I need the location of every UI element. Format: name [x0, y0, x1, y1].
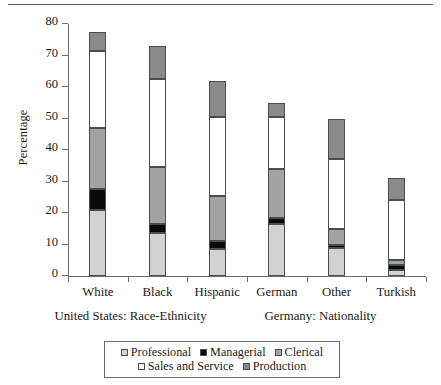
bar-segment-other-professional[interactable] — [328, 248, 345, 276]
bar-segment-black-production[interactable] — [149, 46, 166, 79]
bar-segment-german-managerial[interactable] — [268, 218, 285, 224]
bar-segment-other-production[interactable] — [328, 119, 345, 160]
bar-segment-black-professional[interactable] — [149, 233, 166, 276]
legend-item-sales-and-service[interactable]: Sales and Service — [138, 359, 234, 373]
bar-segment-german-professional[interactable] — [268, 224, 285, 276]
y-axis-tick: 50 — [62, 118, 68, 119]
x-axis-tick — [68, 277, 69, 282]
chart-legend: ProfessionalManagerialClerical Sales and… — [104, 341, 340, 378]
legend-label: Production — [253, 359, 307, 373]
bar-segment-turkish-sales-and-service[interactable] — [388, 200, 405, 260]
bar-segment-german-sales-and-service[interactable] — [268, 117, 285, 169]
legend-row-top: ProfessionalManagerialClerical — [110, 345, 334, 359]
group-label-germany: Germany: Nationality — [228, 309, 413, 324]
bar-segment-turkish-clerical[interactable] — [388, 260, 405, 265]
y-axis-tick: 80 — [62, 23, 68, 24]
y-axis-tick-label: 60 — [46, 77, 59, 92]
bar-segment-hispanic-managerial[interactable] — [209, 241, 226, 249]
chart-figure: Percentage 01020304050607080 WhiteBlackH… — [0, 0, 441, 385]
y-axis-tick-label: 40 — [46, 140, 59, 155]
bar-segment-turkish-production[interactable] — [388, 178, 405, 200]
bar-segment-white-clerical[interactable] — [89, 128, 106, 189]
legend-label: Managerial — [210, 345, 266, 359]
bar-segment-white-production[interactable] — [89, 32, 106, 51]
bar-segment-white-sales-and-service[interactable] — [89, 51, 106, 128]
y-axis-title: Percentage — [16, 78, 31, 198]
y-axis-tick-label: 10 — [46, 235, 59, 250]
y-axis-tick: 40 — [62, 149, 68, 150]
x-axis-tick — [187, 277, 188, 282]
plot-area: 01020304050607080 — [68, 24, 426, 276]
y-axis-line — [68, 24, 69, 276]
bar-segment-german-clerical[interactable] — [268, 169, 285, 218]
bar-segment-hispanic-sales-and-service[interactable] — [209, 117, 226, 196]
legend-swatch-production-icon — [243, 363, 250, 370]
bar-other[interactable] — [328, 119, 345, 277]
bar-segment-other-managerial[interactable] — [328, 245, 345, 248]
legend-item-professional[interactable]: Professional — [121, 345, 191, 359]
bar-white[interactable] — [89, 32, 106, 276]
bar-segment-white-managerial[interactable] — [89, 189, 106, 209]
bar-segment-other-clerical[interactable] — [328, 229, 345, 245]
y-axis-tick: 10 — [62, 244, 68, 245]
y-axis-tick: 20 — [62, 212, 68, 213]
bar-german[interactable] — [268, 103, 285, 276]
y-axis-tick-label: 70 — [46, 46, 59, 61]
y-axis-tick-label: 30 — [46, 172, 59, 187]
legend-row-bottom: Sales and ServiceProduction — [110, 359, 334, 373]
bar-black[interactable] — [149, 46, 166, 276]
bar-segment-hispanic-professional[interactable] — [209, 249, 226, 276]
bar-segment-white-professional[interactable] — [89, 210, 106, 276]
x-axis-tick — [426, 277, 427, 282]
y-axis-tick: 30 — [62, 181, 68, 182]
legend-swatch-managerial-icon — [200, 349, 207, 356]
bar-segment-other-sales-and-service[interactable] — [328, 159, 345, 228]
bar-segment-turkish-professional[interactable] — [388, 270, 405, 276]
bar-segment-black-managerial[interactable] — [149, 224, 166, 233]
bar-segment-black-sales-and-service[interactable] — [149, 79, 166, 167]
y-axis-tick-label: 50 — [46, 109, 59, 124]
legend-swatch-clerical-icon — [275, 349, 282, 356]
legend-label: Professional — [131, 345, 191, 359]
x-axis-label-turkish: Turkish — [351, 285, 441, 300]
bar-segment-turkish-managerial[interactable] — [388, 265, 405, 270]
y-axis-tick: 60 — [62, 86, 68, 87]
bar-segment-black-clerical[interactable] — [149, 167, 166, 224]
x-axis-tick — [128, 277, 129, 282]
y-axis-tick-label: 80 — [46, 14, 59, 29]
legend-label: Sales and Service — [148, 359, 234, 373]
group-label-united-states: United States: Race-Ethnicity — [38, 309, 223, 324]
y-axis-tick: 70 — [62, 55, 68, 56]
bar-hispanic[interactable] — [209, 81, 226, 276]
x-axis-tick — [247, 277, 248, 282]
bar-segment-hispanic-clerical[interactable] — [209, 196, 226, 242]
legend-label: Clerical — [285, 345, 324, 359]
legend-swatch-professional-icon — [121, 349, 128, 356]
bar-turkish[interactable] — [388, 178, 405, 276]
bar-segment-german-production[interactable] — [268, 103, 285, 117]
x-axis-tick — [366, 277, 367, 282]
legend-item-production[interactable]: Production — [243, 359, 307, 373]
top-divider-rule — [8, 4, 433, 5]
legend-swatch-sales-and-service-icon — [138, 363, 145, 370]
legend-item-clerical[interactable]: Clerical — [275, 345, 324, 359]
bar-segment-hispanic-production[interactable] — [209, 81, 226, 117]
y-axis-tick-label: 20 — [46, 203, 59, 218]
y-axis-tick-label: 0 — [52, 266, 58, 281]
legend-item-managerial[interactable]: Managerial — [200, 345, 266, 359]
x-axis-tick — [307, 277, 308, 282]
y-axis-tick: 0 — [62, 275, 68, 276]
